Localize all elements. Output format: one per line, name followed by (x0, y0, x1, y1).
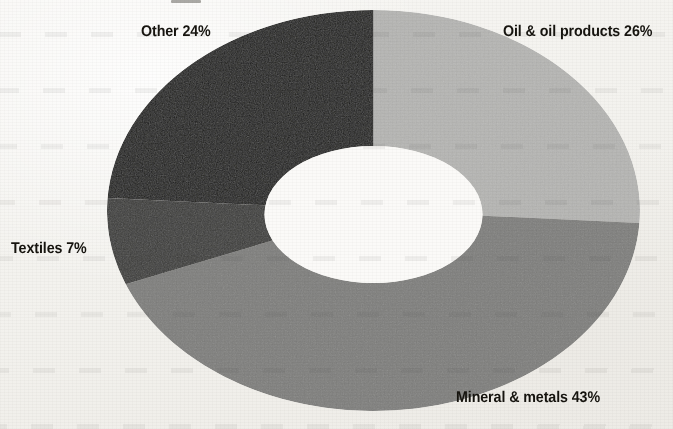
slice-label-oil-and-oil-products: Oil & oil products 26% (503, 23, 652, 41)
cropped-caption-artifact (171, 0, 201, 3)
donut-hole (265, 146, 483, 283)
donut-chart-svg (0, 0, 673, 429)
slice-label-other: Other 24% (141, 23, 211, 41)
slice-label-textiles: Textiles 7% (11, 240, 87, 258)
slice-label-mineral-and-metals: Mineral & metals 43% (456, 389, 600, 407)
donut-chart-figure: Oil & oil products 26% Other 24% Textile… (0, 0, 673, 429)
